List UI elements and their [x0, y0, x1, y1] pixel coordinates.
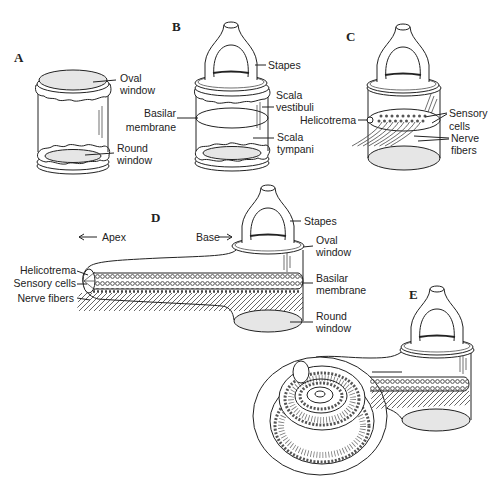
label-basilar-membrane-1: Basilar [316, 272, 349, 284]
panel-a: A Oval window Round window [14, 50, 155, 174]
panel-d: D Apex Base Stapes Oval window Basilar m… [14, 185, 367, 334]
label-sensory-cells-1: Sensory [449, 107, 488, 119]
panel-c: C Helicotrema Sensory cells Nerve fibers [300, 24, 488, 170]
label-round-window-1: Round [316, 310, 347, 322]
panel-letter-a: A [14, 50, 24, 65]
sensory-cell [391, 115, 394, 118]
helicotrema [293, 361, 309, 383]
round-window-membrane [234, 310, 302, 332]
label-basilar-membrane-1: Basilar [144, 107, 177, 119]
label-apex: Apex [102, 231, 127, 243]
label-scala-tympani-1: Scala [277, 131, 303, 143]
basilar-membrane [92, 273, 303, 289]
nerve-fibers [77, 293, 303, 311]
base-arrow-icon [219, 234, 232, 240]
oval-window-membrane [39, 70, 107, 90]
cochlear-spiral [253, 357, 387, 475]
stapes [195, 22, 267, 91]
sensory-cell [405, 120, 408, 123]
sensory-cell [383, 120, 386, 123]
panel-letter-b: B [172, 19, 181, 34]
label-helicotrema: Helicotrema [300, 114, 356, 126]
jar-model [35, 70, 110, 174]
sensory-cell [402, 115, 405, 118]
label-sensory-cells: Sensory cells [14, 277, 76, 289]
sensory-cell [380, 115, 383, 118]
sensory-cell [394, 120, 397, 123]
cochlear-tube-outline [316, 350, 404, 358]
label-scala-vestibuli-1: Scala [276, 89, 302, 101]
label-stapes: Stapes [268, 59, 301, 71]
label-stapes: Stapes [304, 215, 337, 227]
stapes [367, 24, 439, 93]
sensory-cell [407, 115, 410, 118]
panel-letter-e: E [409, 287, 418, 302]
basilar-membrane [370, 377, 469, 391]
sensory-cell [416, 120, 419, 123]
sensory-cell [396, 115, 399, 118]
round-window-membrane [402, 409, 470, 431]
round-window-membrane [203, 147, 261, 160]
sensory-cell [400, 120, 403, 123]
label-oval-window-1: Oval [316, 234, 338, 246]
apex-arrow-icon [79, 234, 97, 240]
nerve-fibers [370, 391, 470, 409]
glass-highlight [460, 354, 466, 374]
label-round-window-2: window [315, 322, 351, 334]
round-window-membrane [368, 146, 440, 170]
label-nerve-fibers-1: Nerve [451, 132, 479, 144]
spiral-center [315, 391, 325, 397]
cochlea-diagram: A Oval window Round window B [0, 0, 503, 487]
sensory-cell [418, 115, 421, 118]
sensory-cell [422, 120, 425, 123]
label-base: Base [196, 231, 220, 243]
label-round-window-1: Round [117, 142, 148, 154]
label-round-window-2: window [116, 154, 152, 166]
sensory-cell [385, 115, 388, 118]
sensory-cell [389, 120, 392, 123]
glass-highlight [284, 252, 290, 272]
label-oval-window-2: window [315, 246, 351, 258]
sensory-cell [413, 115, 416, 118]
label-nerve-fibers: Nerve fibers [17, 292, 74, 304]
leader-line [414, 136, 449, 141]
label-oval-window-1: Oval [120, 72, 142, 84]
sensory-cell [378, 120, 381, 123]
label-basilar-membrane-2: membrane [126, 121, 176, 133]
label-nerve-fibers-2: fibers [451, 144, 477, 156]
stapes [232, 185, 304, 254]
leader-line [303, 246, 313, 247]
label-scala-vestibuli-2: vestibuli [276, 101, 314, 113]
label-basilar-membrane-2: membrane [316, 284, 366, 296]
label-sensory-cells-2: cells [449, 120, 470, 132]
label-helicotrema: Helicotrema [20, 264, 76, 276]
panel-letter-d: D [151, 210, 160, 225]
label-scala-tympani-2: tympani [277, 143, 314, 155]
sensory-cell [411, 120, 414, 123]
panel-letter-c: C [346, 29, 355, 44]
label-oval-window-2: window [119, 84, 155, 96]
round-window-membrane [45, 150, 101, 163]
